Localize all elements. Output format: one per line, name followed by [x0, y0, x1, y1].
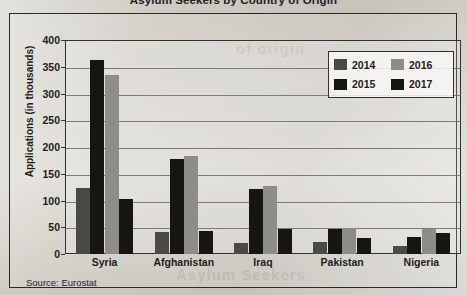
bar[interactable] — [342, 228, 356, 254]
bar[interactable] — [105, 75, 119, 254]
legend-item[interactable]: 2016 — [391, 59, 448, 71]
bar[interactable] — [90, 60, 104, 254]
y-axis-tick-mark — [61, 94, 65, 95]
bar[interactable] — [313, 242, 327, 254]
y-axis-tick-label: 400 — [26, 34, 60, 46]
bar-group — [155, 40, 213, 254]
legend-swatch — [334, 79, 347, 90]
bar[interactable] — [393, 246, 407, 254]
legend-item[interactable]: 2015 — [334, 78, 391, 90]
bar[interactable] — [170, 159, 184, 254]
bar[interactable] — [328, 229, 342, 254]
bar[interactable] — [278, 229, 292, 254]
x-axis-tick-label: Nigeria — [404, 256, 440, 268]
y-axis-tick-label: 150 — [26, 168, 60, 180]
y-axis-tick-mark — [61, 120, 65, 121]
legend-item[interactable]: 2017 — [391, 78, 448, 90]
chart-title: Asylum Seekers by Country of Origin — [0, 0, 467, 6]
legend-label: 2016 — [409, 59, 432, 71]
y-axis-tick-mark — [61, 40, 65, 41]
bar[interactable] — [184, 156, 198, 254]
bar[interactable] — [155, 232, 169, 254]
y-axis-tick-mark — [61, 147, 65, 148]
legend-label: 2014 — [352, 59, 375, 71]
x-axis-tick-label: Pakistan — [321, 256, 364, 268]
bar[interactable] — [422, 229, 436, 254]
page-background: of origin Asylum Seekers Asylum Seekers … — [0, 0, 467, 295]
source-note: Source: Eurostat — [26, 277, 97, 288]
y-axis-tick-mark — [61, 201, 65, 202]
y-axis-tick-label: 250 — [26, 114, 60, 126]
bar[interactable] — [76, 188, 90, 254]
figure-frame: Applications (in thousands) 050100150200… — [9, 13, 457, 288]
legend-swatch — [391, 59, 404, 70]
y-axis-tick-label: 200 — [26, 141, 60, 153]
y-axis-tick-mark — [61, 227, 65, 228]
bar[interactable] — [249, 189, 263, 254]
bar[interactable] — [407, 237, 421, 254]
legend-label: 2017 — [409, 78, 432, 90]
legend-item[interactable]: 2014 — [334, 59, 391, 71]
bar[interactable] — [119, 199, 133, 254]
y-axis-tick-labels: 050100150200250300350400 — [22, 40, 60, 254]
bar[interactable] — [234, 243, 248, 254]
y-axis-tick-mark — [61, 174, 65, 175]
y-axis-tick-label: 350 — [26, 61, 60, 73]
bar[interactable] — [199, 231, 213, 254]
y-axis-tick-mark — [61, 67, 65, 68]
x-axis-tick-labels: SyriaAfghanistanIraqPakistanNigeria — [65, 256, 461, 272]
y-axis-tick-label: 100 — [26, 195, 60, 207]
y-axis-tick-label: 300 — [26, 88, 60, 100]
bar[interactable] — [436, 233, 450, 254]
y-axis-tick-label: 0 — [26, 248, 60, 260]
x-axis-tick-label: Syria — [92, 256, 118, 268]
bar[interactable] — [263, 186, 277, 254]
legend-swatch — [391, 79, 404, 90]
y-axis-tick-label: 50 — [26, 221, 60, 233]
x-axis-tick-label: Iraq — [253, 256, 272, 268]
bar-group — [76, 40, 134, 254]
legend-swatch — [334, 59, 347, 70]
y-axis-tick-mark — [61, 254, 65, 255]
bar-group — [234, 40, 292, 254]
x-axis-tick-label: Afghanistan — [153, 256, 214, 268]
bar[interactable] — [357, 238, 371, 254]
legend-label: 2015 — [352, 78, 375, 90]
chart-legend: 2014201620152017 — [328, 51, 454, 98]
